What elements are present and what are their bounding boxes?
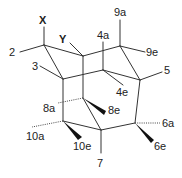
bond-8a-hashed — [58, 98, 83, 103]
label-6e: 6e — [154, 140, 166, 152]
label-4a: 4a — [97, 29, 110, 41]
bond-c7-c6 — [101, 123, 135, 130]
label-10a: 10a — [26, 130, 45, 142]
label-x: X — [39, 14, 47, 26]
label-y: Y — [59, 33, 67, 45]
label-8e: 8e — [108, 104, 120, 116]
atom-labels: X Y 2 3 4a 4e 5 6a 6e 7 8a 8e 9a 9e 10a … — [9, 6, 175, 169]
bond-cy-c9 — [83, 46, 120, 56]
label-7: 7 — [97, 157, 103, 169]
structure-canvas: X Y 2 3 4a 4e 5 6a 6e 7 8a 8e 9a 9e 10a … — [0, 0, 182, 178]
bond-6e-wedge — [135, 123, 154, 143]
bond-9e — [120, 46, 145, 52]
bond-8e-wedge — [83, 98, 106, 115]
label-8a: 8a — [43, 102, 56, 114]
label-9e: 9e — [146, 46, 158, 58]
molecular-structure-diagram: X Y 2 3 4a 4e 5 6a 6e 7 8a 8e 9a 9e 10a … — [0, 0, 182, 178]
label-4e: 4e — [116, 86, 128, 98]
label-10e: 10e — [73, 140, 91, 152]
bond-c5-c6 — [135, 80, 140, 123]
bond-c8-c7 — [83, 98, 101, 130]
bond-5 — [140, 72, 162, 80]
label-2: 2 — [9, 46, 15, 58]
bond-2 — [20, 45, 44, 52]
label-5: 5 — [164, 64, 170, 76]
label-6a: 6a — [162, 117, 175, 129]
label-3: 3 — [32, 60, 38, 72]
bond-c10-c7 — [63, 121, 101, 130]
bond-10a-hashed — [32, 121, 63, 127]
bond-10e-wedge — [63, 121, 82, 140]
label-9a: 9a — [114, 6, 127, 18]
